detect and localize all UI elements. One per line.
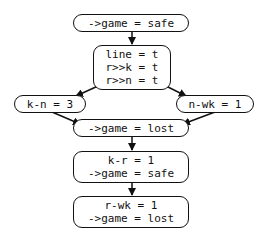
node-line: ->game = safe (74, 167, 188, 180)
node-game-safe: ->game = safe (73, 14, 189, 32)
node-k-r: k-r = 1 ->game = safe (73, 151, 189, 183)
node-n-wk: n-wk = 1 (176, 95, 254, 113)
node-line: k-r = 1 (74, 154, 188, 167)
node-line: r-wk = 1 (74, 199, 188, 212)
node-r-wk: r-wk = 1 ->game = lost (73, 196, 189, 228)
node-line: n-wk = 1 (177, 98, 253, 111)
node-line-conditions: line = t r>>k = t r>>n = t (93, 45, 171, 90)
node-line: k-n = 3 (15, 98, 85, 111)
node-line: r>>k = t (94, 61, 170, 74)
node-line: r>>n = t (94, 74, 170, 87)
flow-diagram: ->game = safe line = t r>>k = t r>>n = t… (0, 0, 270, 239)
node-k-n: k-n = 3 (14, 95, 86, 113)
node-line: line = t (94, 48, 170, 61)
node-line: ->game = lost (74, 122, 188, 135)
node-line: ->game = lost (74, 212, 188, 225)
node-game-lost: ->game = lost (73, 119, 189, 137)
node-line: ->game = safe (74, 17, 188, 30)
